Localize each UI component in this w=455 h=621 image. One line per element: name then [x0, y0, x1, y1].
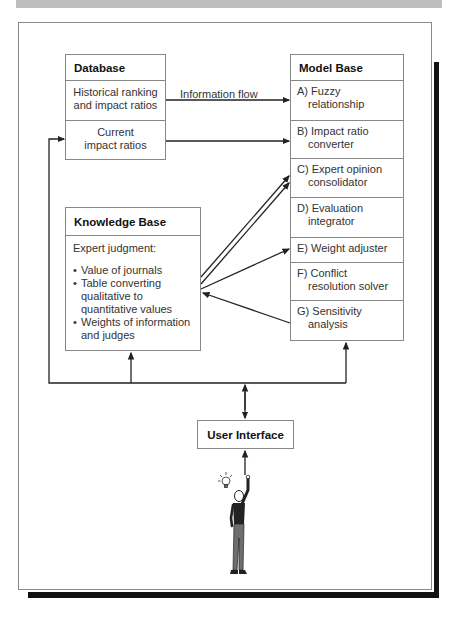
row-line: Current — [66, 126, 165, 139]
model-item-g: G) Sensitivityanalysis — [291, 301, 403, 340]
list-item: Weights of information and judges — [73, 316, 193, 342]
model-item-f: F) Conflictresolution solver — [291, 263, 403, 301]
item-key: E) — [297, 242, 308, 254]
bullet-line: quantitative values — [81, 303, 193, 316]
list-item: Table converting qualitative to quantita… — [73, 277, 193, 316]
model-base-box: Model Base A) Fuzzyrelationship B) Impac… — [290, 54, 404, 341]
item-key: G) — [297, 305, 309, 317]
row-line: and impact ratios — [66, 99, 165, 112]
model-item-d: D) Evaluationintegrator — [291, 198, 403, 238]
knowledge-base-box: Knowledge Base Expert judgment: Value of… — [65, 207, 201, 351]
model-item-c: C) Expert opinionconsolidator — [291, 159, 403, 198]
bullet-line: and judges — [81, 329, 193, 342]
person-with-lightbulb-icon — [218, 466, 268, 581]
item-line2: resolution solver — [297, 280, 397, 293]
item-line2: converter — [297, 138, 397, 151]
knowledge-base-title: Knowledge Base — [66, 208, 200, 236]
item-key: D) — [297, 202, 309, 214]
item-line2: analysis — [297, 318, 397, 331]
list-item: Value of journals — [73, 264, 193, 277]
item-line1: Sensitivity — [312, 305, 362, 317]
user-interface-box: User Interface — [197, 420, 294, 449]
bullet-line: Weights of information — [81, 316, 193, 329]
item-key: F) — [297, 267, 307, 279]
item-key: C) — [297, 163, 309, 175]
information-flow-label: Information flow — [180, 88, 258, 100]
row-line: Historical ranking — [66, 86, 165, 99]
item-line2: relationship — [297, 98, 397, 111]
database-row-current: Current impact ratios — [66, 121, 165, 159]
knowledge-base-body: Expert judgment: Value of journals Table… — [66, 236, 200, 348]
item-key: A) — [297, 85, 308, 97]
model-item-b: B) Impact ratioconverter — [291, 121, 403, 159]
model-item-e: E) Weight adjuster — [291, 238, 403, 263]
model-item-a: A) Fuzzyrelationship — [291, 81, 403, 121]
bullet-line: Table converting — [81, 277, 193, 290]
item-line2: consolidator — [297, 176, 397, 189]
knowledge-base-list: Value of journals Table converting quali… — [73, 264, 193, 342]
bullet-line: qualitative to — [81, 290, 193, 303]
item-line1: Impact ratio — [311, 125, 368, 137]
item-line2: integrator — [297, 215, 397, 228]
row-line: impact ratios — [66, 139, 165, 152]
item-line1: Fuzzy — [311, 85, 340, 97]
item-line1: Expert opinion — [312, 163, 382, 175]
knowledge-base-intro: Expert judgment: — [73, 242, 193, 255]
database-row-historical: Historical ranking and impact ratios — [66, 81, 165, 121]
database-box: Database Historical ranking and impact r… — [65, 54, 166, 160]
item-line1: Weight adjuster — [311, 242, 387, 254]
database-title: Database — [66, 55, 165, 81]
model-base-title: Model Base — [291, 55, 403, 81]
item-line1: Conflict — [310, 267, 347, 279]
item-line1: Evaluation — [312, 202, 363, 214]
bullet-line: Value of journals — [81, 264, 193, 277]
item-key: B) — [297, 125, 308, 137]
